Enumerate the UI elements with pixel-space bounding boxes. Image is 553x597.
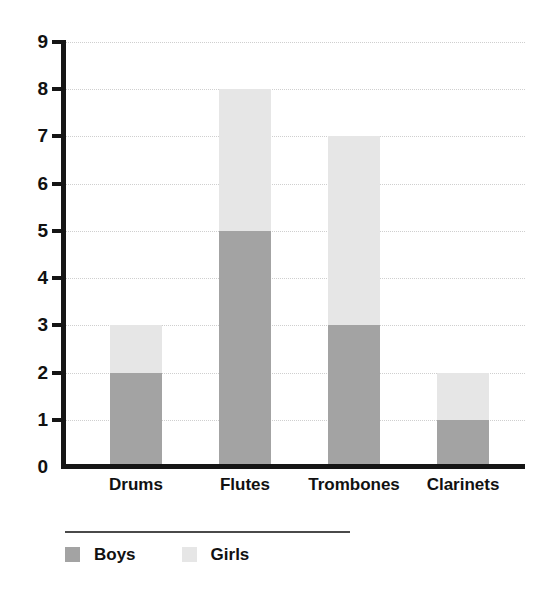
legend-swatch-girls bbox=[182, 547, 197, 562]
y-tick-mark-6 bbox=[52, 182, 63, 186]
y-tick-mark-1 bbox=[52, 418, 63, 422]
legend-divider bbox=[65, 531, 350, 533]
legend: Boys Girls bbox=[65, 546, 295, 563]
y-axis-ticks: 9 8 7 6 5 4 3 2 1 0 bbox=[0, 0, 553, 597]
y-tick-mark-8 bbox=[52, 87, 63, 91]
y-tick-label-4: 4 bbox=[20, 268, 48, 287]
y-tick-label-5: 5 bbox=[20, 221, 48, 240]
stacked-bar-chart: 9 8 7 6 5 4 3 2 1 0 Drums Flutes Trombon… bbox=[0, 0, 553, 597]
y-tick-mark-7 bbox=[52, 134, 63, 138]
y-tick-label-2: 2 bbox=[20, 363, 48, 382]
y-tick-label-6: 6 bbox=[20, 174, 48, 193]
legend-label-boys: Boys bbox=[94, 546, 136, 563]
y-tick-mark-4 bbox=[52, 276, 63, 280]
y-tick-label-3: 3 bbox=[20, 315, 48, 334]
y-tick-mark-5 bbox=[52, 229, 63, 233]
y-tick-label-0: 0 bbox=[20, 457, 48, 476]
y-tick-label-1: 1 bbox=[20, 410, 48, 429]
legend-item-boys: Boys bbox=[65, 546, 136, 563]
y-tick-mark-2 bbox=[52, 371, 63, 375]
y-tick-label-9: 9 bbox=[20, 32, 48, 51]
legend-item-girls: Girls bbox=[182, 546, 250, 563]
y-tick-label-7: 7 bbox=[20, 126, 48, 145]
y-tick-label-8: 8 bbox=[20, 79, 48, 98]
y-tick-mark-3 bbox=[52, 323, 63, 327]
legend-label-girls: Girls bbox=[211, 546, 250, 563]
x-tick-label-clarinets: Clarinets bbox=[393, 476, 533, 495]
y-tick-mark-9 bbox=[52, 40, 63, 44]
legend-swatch-boys bbox=[65, 547, 80, 562]
